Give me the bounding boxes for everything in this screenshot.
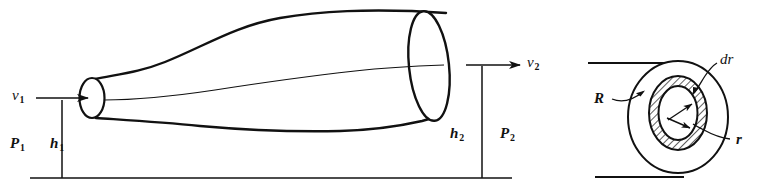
- label-p1-base: P: [10, 135, 19, 151]
- label-R: R: [594, 91, 604, 106]
- label-v1-subscript: 1: [20, 94, 25, 105]
- label-v2-subscript: 2: [535, 61, 540, 72]
- flow-tube-group: [30, 9, 520, 178]
- label-v2-base: v: [527, 54, 534, 70]
- label-h2: h2: [450, 126, 464, 141]
- label-h2-subscript: 2: [459, 132, 464, 143]
- centre-streamline: [104, 65, 444, 100]
- annulus-group: [588, 50, 759, 190]
- label-dr-base: dr: [720, 51, 733, 67]
- label-p1: P1: [10, 136, 24, 151]
- label-h1: h1: [50, 136, 64, 151]
- label-v1-base: v: [12, 87, 19, 103]
- label-p2-subscript: 2: [510, 132, 515, 143]
- label-r: r: [736, 132, 742, 147]
- physics-figure: v1 v2 P1 h1 h2 P2 R r dr: [0, 0, 759, 192]
- label-r-base: r: [736, 131, 742, 147]
- label-v2: v2: [527, 55, 539, 70]
- label-p1-subscript: 1: [20, 142, 25, 153]
- label-h1-base: h: [50, 135, 58, 151]
- figure-canvas: [0, 0, 759, 192]
- tube-upper-surface: [95, 11, 446, 79]
- label-v1: v1: [12, 88, 24, 103]
- label-h2-base: h: [450, 125, 458, 141]
- label-h1-subscript: 1: [59, 142, 64, 153]
- label-dr: dr: [720, 52, 733, 67]
- label-p2-base: P: [500, 125, 509, 141]
- tube-lower-surface: [96, 117, 436, 131]
- label-p2: P2: [500, 126, 514, 141]
- label-R-base: R: [594, 90, 604, 106]
